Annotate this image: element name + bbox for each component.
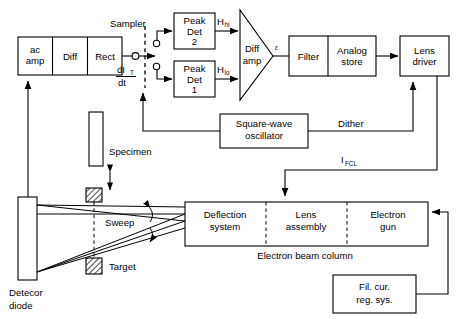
- detector-label-line2: diode: [9, 300, 32, 311]
- h-lo-symbol: H: [217, 64, 224, 75]
- sweep-label: Sweep: [105, 217, 134, 228]
- peak-det2-label-line1: Peak: [184, 15, 206, 26]
- dit-numerator-subscript: T: [130, 69, 134, 76]
- oscillator-to-sampler-wire: [143, 93, 220, 131]
- sweep-arc-upper: [150, 208, 153, 222]
- fil-cur-label-line2: reg. sys.: [356, 294, 392, 305]
- specimen-group: Specimen: [89, 112, 152, 190]
- ac-amp-label-line2: amp: [26, 55, 45, 66]
- h-lo-subscript: lo: [225, 69, 230, 76]
- specimen-label: Specimen: [109, 146, 152, 157]
- detector-diode-outline: [18, 197, 37, 280]
- h-lo-label: H lo: [217, 64, 230, 76]
- electron-gun-label-line2: gun: [380, 221, 396, 232]
- peak-det2-input-wire: [157, 31, 172, 41]
- electron-beam-column-block: Deflection system Lens assembly Electron…: [185, 202, 428, 261]
- lens-driver-label-line1: Lens: [414, 45, 435, 56]
- specimen-outline: [89, 112, 103, 166]
- square-wave-oscillator-block: Square-wave oscillator: [220, 114, 308, 148]
- diagram-canvas: ac amp Diff Rect Sampler dI T dt Peak De…: [0, 0, 461, 319]
- target-upper-block: [86, 188, 102, 202]
- deflection-label-line1: Deflection: [204, 209, 247, 220]
- peak-detector-2-block: Peak Det 2: [174, 13, 215, 49]
- amplifier-chain-block: ac amp Diff Rect: [18, 37, 122, 75]
- diff-amp-label-line1: Diff: [245, 43, 260, 54]
- electron-beam-column-label: Electron beam column: [257, 250, 352, 261]
- peak-det2-switch-node: [153, 40, 159, 46]
- lens-driver-label-line2: driver: [413, 56, 438, 67]
- peak-det2-label-line3: 2: [192, 36, 197, 47]
- i-fcl-subscript: FCL: [345, 160, 357, 167]
- diff-amp-label-line2: amp: [243, 55, 262, 66]
- peak-detector-1-block: Peak Det 1: [174, 61, 215, 97]
- lens-assembly-label-line2: assembly: [286, 221, 327, 232]
- peak-det1-label-line2: Det: [187, 74, 202, 85]
- electron-gun-label-line1: Electron: [370, 209, 405, 220]
- lens-assembly-label-line1: Lens: [296, 209, 317, 220]
- current-derivative-label: dI T dt: [116, 64, 136, 88]
- h-hi-symbol: H: [217, 16, 224, 27]
- lens-driver-block: Lens driver: [400, 36, 449, 76]
- fil-cur-label-line1: Fil. cur.: [359, 281, 390, 292]
- detector-label-line1: Detecor: [9, 287, 43, 298]
- analog-store-label-line2: store: [341, 56, 362, 67]
- rect-label: Rect: [95, 51, 115, 62]
- target-lower-block: [86, 258, 102, 274]
- sq-osc-label-line2: oscillator: [245, 130, 284, 141]
- diff-label: Diff: [63, 51, 78, 62]
- i-fcl-label: I FCL: [341, 154, 357, 167]
- epsilon-label: ε: [275, 44, 278, 51]
- peak-det1-input-wire: [157, 70, 172, 79]
- filter-analog-store-block: Filter Analog store: [289, 36, 376, 76]
- sq-osc-label-line1: Square-wave: [236, 118, 293, 129]
- target-label: Target: [109, 261, 136, 272]
- target-group: Target: [86, 188, 136, 274]
- peak-det1-label-line1: Peak: [184, 63, 206, 74]
- dit-denominator: dt: [118, 77, 126, 88]
- h-hi-label: H hi: [217, 16, 229, 28]
- sampler-input-node: [132, 53, 139, 60]
- filter-label: Filter: [298, 51, 320, 62]
- beam-ray-upper-1: [37, 205, 185, 207]
- sweep-arc-lower: [150, 228, 153, 242]
- analog-store-label-line1: Analog: [337, 45, 367, 56]
- differential-amplifier-block: Diff amp: [240, 10, 273, 100]
- i-fcl-symbol: I: [341, 154, 344, 165]
- peak-det2-label-line2: Det: [187, 26, 202, 37]
- ac-amp-label-line1: ac: [30, 44, 40, 55]
- deflection-label-line2: system: [210, 221, 240, 232]
- dither-label: Dither: [338, 118, 364, 129]
- peak-det1-switch-node: [153, 63, 159, 69]
- peak-det1-label-line3: 1: [192, 84, 197, 95]
- sampler-label: Sampler: [110, 18, 147, 29]
- filament-current-regulator-block: Fil. cur. reg. sys.: [333, 275, 416, 313]
- block-diagram-figure: ac amp Diff Rect Sampler dI T dt Peak De…: [0, 0, 461, 319]
- h-hi-subscript: hi: [225, 21, 230, 28]
- dit-numerator: dI: [117, 64, 125, 75]
